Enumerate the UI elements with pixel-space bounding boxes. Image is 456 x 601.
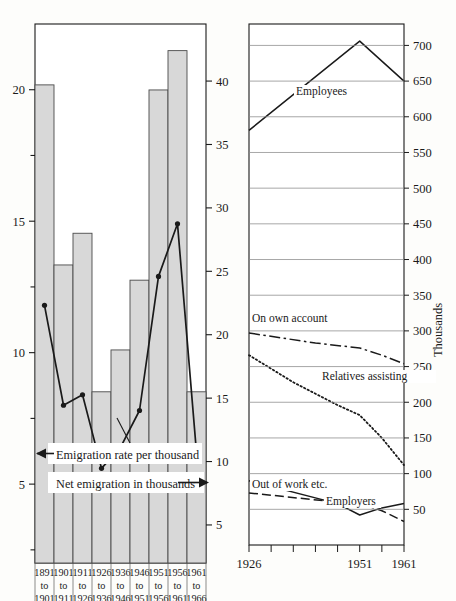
x-axis-tick-label: to bbox=[60, 580, 68, 591]
x-axis-tick-label: 1961 bbox=[392, 557, 417, 571]
axis-tick-label: 200 bbox=[413, 396, 432, 410]
annotation-label: Emigration rate per thousand bbox=[56, 448, 199, 462]
x-axis-tick-label: to bbox=[79, 580, 87, 591]
data-point bbox=[175, 221, 180, 226]
x-axis-tick-label: 1936 bbox=[110, 567, 130, 578]
bar bbox=[54, 265, 73, 563]
axis-tick-label: 100 bbox=[413, 467, 432, 481]
annotation-label: Net emigration in thousands bbox=[56, 477, 195, 491]
x-axis-tick-label: to bbox=[155, 580, 163, 591]
series-label: On own account bbox=[252, 312, 328, 324]
x-axis-tick-label: 1966 bbox=[186, 593, 206, 601]
axis-tick-label: 400 bbox=[413, 253, 432, 267]
axis-tick-label: 700 bbox=[413, 39, 432, 53]
emigration-chart-panel: 5101520510152025303540Emigration rate pe… bbox=[0, 0, 236, 601]
axis-tick-label: 150 bbox=[413, 431, 432, 445]
axis-tick-label: 10 bbox=[216, 455, 229, 469]
series-label: Out of work etc. bbox=[252, 478, 327, 490]
axis-tick-label: 300 bbox=[413, 324, 432, 338]
x-axis-tick-label: 1911 bbox=[54, 593, 74, 601]
data-point bbox=[99, 466, 104, 471]
x-axis-tick-label: to bbox=[98, 580, 106, 591]
x-axis-tick-label: 1946 bbox=[129, 567, 149, 578]
plot-frame bbox=[249, 24, 404, 545]
x-axis-tick-label: 1891 bbox=[34, 567, 54, 578]
data-point bbox=[156, 274, 161, 279]
x-axis: 192619511961 bbox=[237, 545, 417, 571]
axis-tick-label: 350 bbox=[413, 289, 432, 303]
x-axis-tick-label: 1911 bbox=[73, 567, 93, 578]
x-axis-tick-label: 1961 bbox=[186, 567, 206, 578]
data-point bbox=[61, 403, 66, 408]
x-axis-tick-label: 1936 bbox=[91, 593, 111, 601]
series-label: Employers bbox=[326, 495, 376, 508]
axis-tick-label: 35 bbox=[216, 138, 229, 152]
data-point bbox=[42, 303, 47, 308]
data-point bbox=[80, 392, 85, 397]
axis-tick-label: 650 bbox=[413, 74, 432, 88]
x-axis-labels: 1891to19011901to19111911to19261926to1936… bbox=[34, 563, 206, 601]
axis-tick-label: 550 bbox=[413, 146, 432, 160]
axis-tick-label: 25 bbox=[216, 265, 229, 279]
x-axis-tick-label: 1926 bbox=[237, 557, 262, 571]
x-axis-tick-label: 1901 bbox=[53, 567, 73, 578]
axis-tick-label: 15 bbox=[13, 215, 26, 229]
x-axis-tick-label: 1951 bbox=[148, 567, 168, 578]
axis-tick-label: 500 bbox=[413, 182, 432, 196]
axis-tick-label: 20 bbox=[216, 328, 229, 342]
axis-tick-label: 5 bbox=[19, 478, 25, 492]
x-axis-tick-label: to bbox=[136, 580, 144, 591]
y-axis-title: Thousands bbox=[431, 303, 445, 357]
series-label: Relatives assisting bbox=[322, 370, 408, 383]
x-axis-tick-label: to bbox=[193, 580, 201, 591]
axis-tick-label: 50 bbox=[413, 503, 426, 517]
axis-tick-label: 5 bbox=[216, 518, 222, 532]
axis-tick-label: 30 bbox=[216, 201, 229, 215]
axis-tick-label: 600 bbox=[413, 110, 432, 124]
x-axis-tick-label: 1901 bbox=[34, 593, 54, 601]
x-axis-tick-label: to bbox=[41, 580, 49, 591]
left-axis: 5101520 bbox=[13, 83, 36, 550]
axis-tick-label: 40 bbox=[216, 75, 229, 89]
x-axis-tick-label: 1926 bbox=[72, 593, 92, 601]
data-point bbox=[137, 408, 142, 413]
x-axis-tick-label: 1961 bbox=[167, 593, 187, 601]
right-axis: 510152025303540 bbox=[206, 75, 229, 533]
occupation-chart-panel: 5010015020025030035040045050055060065070… bbox=[236, 0, 456, 601]
emigration-chart-svg: 5101520510152025303540Emigration rate pe… bbox=[0, 0, 236, 601]
figure-root: 5101520510152025303540Emigration rate pe… bbox=[0, 0, 456, 601]
x-axis-tick-label: 1946 bbox=[110, 593, 130, 601]
axis-tick-label: 15 bbox=[216, 392, 229, 406]
x-axis-tick-label: 1956 bbox=[148, 593, 168, 601]
series-label: Employees bbox=[296, 85, 348, 98]
x-axis-tick-label: 1956 bbox=[167, 567, 187, 578]
x-axis-tick-label: 1951 bbox=[347, 557, 372, 571]
occupation-chart-svg: 5010015020025030035040045050055060065070… bbox=[236, 0, 456, 601]
axis-tick-label: 10 bbox=[13, 346, 26, 360]
x-axis-tick-label: 1926 bbox=[91, 567, 111, 578]
x-axis-tick-label: to bbox=[174, 580, 182, 591]
axis-tick-label: 450 bbox=[413, 217, 432, 231]
x-axis-tick-label: to bbox=[117, 580, 125, 591]
x-axis-tick-label: 1951 bbox=[129, 593, 149, 601]
axis-tick-label: 20 bbox=[13, 83, 26, 97]
plot-area bbox=[249, 24, 404, 545]
